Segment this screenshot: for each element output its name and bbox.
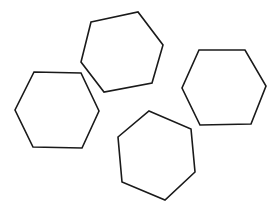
hexagons-drawing (0, 0, 278, 212)
hexagon-right (182, 50, 266, 125)
hexagon-top (81, 12, 163, 92)
diagram-canvas (0, 0, 278, 212)
hexagon-left (15, 72, 99, 148)
hexagon-bottom (118, 111, 195, 200)
